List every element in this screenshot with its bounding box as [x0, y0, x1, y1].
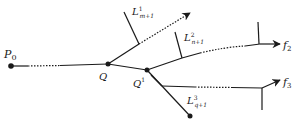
label-p0: P0: [3, 48, 17, 62]
label-l3-sup: 3: [194, 94, 198, 101]
node-p0-dot: [8, 63, 14, 69]
label-f2-sub: 2: [287, 45, 291, 53]
branch-l2-f2: [147, 22, 280, 70]
label-l2-sub: n+1: [191, 38, 204, 45]
label-l1-sub: m+1: [139, 12, 154, 19]
label-f3: f3: [282, 76, 292, 90]
branch-l1: [108, 12, 190, 64]
label-q: Q: [99, 71, 107, 82]
branch-f3: [151, 75, 280, 110]
label-q1: Q1: [133, 76, 145, 89]
label-q1-main: Q: [133, 78, 141, 89]
label-q1-sup: 1: [141, 76, 145, 83]
label-l3-sub: q+1: [194, 101, 207, 109]
label-l2: L2n+1: [183, 31, 204, 45]
label-l1-sup: 1: [139, 5, 143, 12]
segment-q-to-q1: [108, 64, 147, 70]
label-f2: f2: [282, 39, 292, 53]
label-l2-sup: 2: [191, 31, 195, 38]
node-q-dot: [106, 62, 111, 67]
label-p0-sub: 0: [11, 53, 16, 62]
path-p0-to-q: [11, 64, 108, 66]
node-q1-dot: [145, 68, 150, 73]
node-end3-dot: [188, 114, 193, 119]
branch-l3: [147, 70, 190, 116]
label-f3-sub: 3: [287, 82, 291, 90]
branching-path-diagram: P0 Q Q1 L1m+1 L2n+1 L3q+1 f2 f3: [0, 0, 299, 129]
label-l3: L3q+1: [186, 94, 207, 109]
label-l1: L1m+1: [131, 5, 154, 19]
